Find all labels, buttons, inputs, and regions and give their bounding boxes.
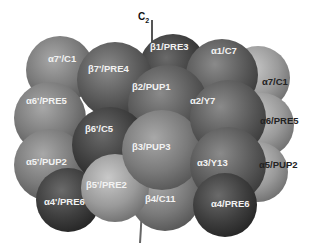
label-a6: α6/PRE5 <box>260 115 299 126</box>
label-a5p: α5'/PUP2 <box>26 156 67 167</box>
label-b2: β2/PUP1 <box>132 81 171 92</box>
label-b3: β3/PUP3 <box>132 141 171 152</box>
label-a6p: α6'/PRE5 <box>26 95 68 106</box>
label-b1: β1/PRE3 <box>150 41 189 52</box>
c2-axis-label: C2 <box>138 11 149 24</box>
label-a2: α2/Y7 <box>190 95 215 106</box>
label-b5p: β5'/PRE2 <box>86 179 127 190</box>
label-a4: α4/PRE6 <box>211 198 250 209</box>
label-a3: α3/Y13 <box>197 157 228 168</box>
label-a4p: α4'/PRE6 <box>44 196 85 207</box>
label-b6p: β6'/C5 <box>85 123 114 134</box>
label-b4: β4/C11 <box>145 193 176 204</box>
label-a5: α5/PUP2 <box>259 159 298 170</box>
label-a7: α7/C1 <box>262 76 289 87</box>
label-a1: α1/C7 <box>211 45 237 56</box>
label-b7p: β7'/PRE4 <box>88 63 130 74</box>
label-a7p: α7'/C1 <box>48 53 77 64</box>
proteasome-diagram: C2 α7'/C1 β7'/PRE4 β1/PRE3 α1/C7 α7/C1 α… <box>0 0 312 249</box>
